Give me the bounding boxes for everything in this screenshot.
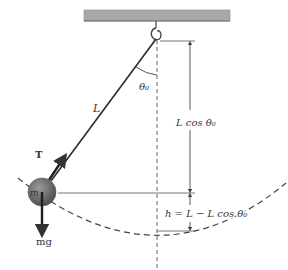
vertical-component-label: L cos θ₀ (175, 117, 216, 128)
angle-label: θ₀ (139, 81, 149, 92)
tension-label: T (35, 149, 43, 160)
length-label: L (92, 102, 100, 115)
angle-arc (136, 67, 157, 75)
tension-vector (49, 159, 63, 180)
ceiling (84, 10, 230, 21)
pendulum-diagram: L θ₀ T m mg L cos θ₀ h = L − L cos θ₀ (0, 0, 288, 270)
swing-path-arc (18, 178, 286, 235)
pendulum-string (51, 39, 156, 181)
mass-label: m (30, 188, 39, 198)
height-label: h = L − L cos θ₀ (165, 208, 247, 219)
hook-icon (151, 21, 161, 40)
weight-label: mg (36, 236, 52, 247)
